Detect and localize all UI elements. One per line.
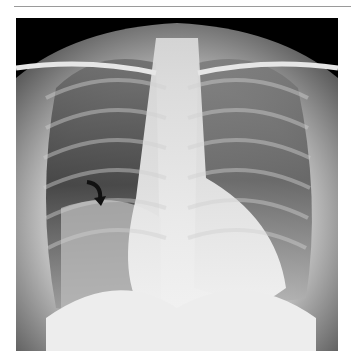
curved-arrow-icon [84, 178, 110, 208]
chest-xray-image [16, 18, 338, 351]
top-rule-divider [14, 6, 351, 7]
